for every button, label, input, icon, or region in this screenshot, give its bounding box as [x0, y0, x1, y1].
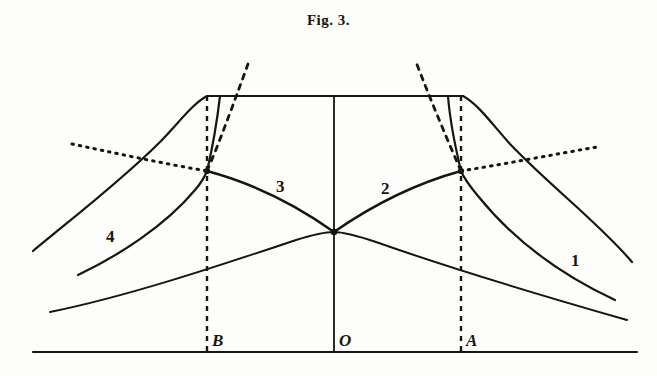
curve-label-1: 1 — [571, 252, 580, 269]
envelope-curve — [33, 96, 632, 262]
axis-label-a: A — [466, 332, 477, 349]
curve-label-3: 3 — [276, 178, 285, 195]
figure-plot — [0, 0, 657, 376]
right-dotted-tail-path — [461, 147, 597, 171]
curve-2-path — [334, 171, 461, 232]
curve-3-path — [207, 171, 334, 232]
junction-a-node — [458, 168, 464, 174]
curve-label-4: 4 — [106, 228, 115, 245]
junction-b-node — [204, 168, 210, 174]
axis-label-b: B — [212, 332, 223, 349]
curve-4-path — [78, 96, 220, 275]
center-crossing-node — [331, 229, 338, 236]
bottom-broad-curve-path — [50, 232, 627, 320]
curve-1-path — [448, 96, 615, 300]
figure-container: Fig. 3. 1 — [0, 0, 657, 376]
curve-label-2: 2 — [381, 180, 390, 197]
left-dashed-steep-path — [207, 64, 248, 171]
left-dotted-tail-path — [72, 144, 207, 171]
right-dashed-steep-path — [416, 62, 461, 171]
axis-label-o: O — [339, 332, 351, 349]
